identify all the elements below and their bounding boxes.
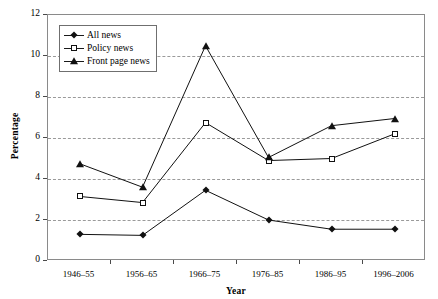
y-tick-label: 4 [8,173,40,183]
x-tick-mark [236,260,237,264]
chart-figure: Percentage 024681012 1946–551956–651966–… [0,0,438,299]
data-point-marker [329,156,335,162]
y-tick-label: 8 [8,91,40,101]
x-tick-mark [110,260,111,264]
data-point-marker [391,115,399,122]
y-tick-label: 10 [8,50,40,60]
x-tick-mark [173,260,174,264]
legend-label: All news [84,31,121,41]
data-point-marker [265,154,273,161]
data-point-marker [392,131,398,137]
legend-marker-icon [64,43,84,54]
chart-legend: All newsPolicy newsFront page news [59,25,157,72]
y-tick-mark [43,219,47,220]
y-tick-label: 0 [8,255,40,265]
data-point-marker [140,200,146,206]
y-tick-mark [43,55,47,56]
series-line [80,123,395,203]
legend-marker-glyph [71,45,77,51]
x-tick-mark [362,260,363,264]
y-tick-mark [43,137,47,138]
x-tick-mark [299,260,300,264]
x-tick-label: 1946–55 [47,270,110,279]
y-tick-label: 6 [8,132,40,142]
y-tick-label: 2 [8,214,40,224]
data-point-marker [203,120,209,126]
legend-marker-glyph [70,57,78,64]
x-tick-label: 1986–95 [299,270,362,279]
x-tick-label: 1996–2006 [362,270,425,279]
data-point-marker [139,183,147,190]
legend-label: Front page news [84,57,150,67]
y-tick-label: 12 [8,9,40,19]
y-tick-mark [43,260,47,261]
legend-marker-icon [64,30,84,41]
legend-item: Front page news [64,55,150,68]
data-point-marker [77,193,83,199]
legend-item: Policy news [64,42,150,55]
series-line [80,190,395,235]
x-axis-title: Year [47,286,425,296]
y-tick-mark [43,14,47,15]
legend-label: Policy news [84,44,133,54]
y-tick-mark [43,178,47,179]
legend-marker-icon [64,56,84,67]
legend-item: All news [64,29,150,42]
x-tick-label: 1976–85 [236,270,299,279]
y-tick-mark [43,96,47,97]
data-point-marker [76,160,84,167]
legend-marker-glyph [70,31,77,38]
data-point-marker [328,122,336,129]
x-tick-label: 1966–75 [173,270,236,279]
data-point-marker [202,42,210,49]
x-tick-label: 1956–65 [110,270,173,279]
